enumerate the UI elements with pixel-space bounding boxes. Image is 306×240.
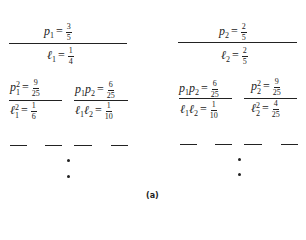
fraction: 25 [242,47,248,66]
subscript: 2 [257,88,261,95]
fraction: 425 [272,100,280,119]
placeholder-dash [45,145,62,146]
placeholder-dash [74,145,92,146]
numerator: 3 [66,23,72,33]
equals-sign: = [262,101,269,115]
subscript: 1 [15,112,19,119]
p-subscript: 1 [50,31,54,40]
right-top-p: p2=25 [219,23,247,42]
placeholder-dash [281,144,298,145]
subscript: 1 [16,89,20,96]
sup-sub: 21 [15,104,19,118]
fraction: 625 [211,80,219,99]
fraction: 16 [31,102,37,121]
denominator: 5 [242,33,246,42]
right-child1-l: ℓ1ℓ2=110 [180,101,218,120]
fraction: 925 [273,78,281,97]
p-subscript: 2 [225,31,229,40]
p-subscript: 2 [195,88,199,97]
fraction: 110 [105,102,113,121]
right-top-l: ℓ2=25 [221,47,248,66]
ellipsis-dot [67,159,70,162]
left-child2-l: ℓ1ℓ2=110 [75,102,113,121]
numerator: 9 [33,79,39,89]
right-child2-l: ℓ22=425 [251,100,280,119]
left-top-l: ℓ1=14 [47,47,74,66]
equals-sign: = [21,103,28,117]
denominator: 25 [272,110,280,119]
equals-sign: = [22,80,29,94]
left-top-divider [9,43,127,44]
left-child1-l: ℓ21=16 [10,102,37,121]
denominator: 10 [105,112,113,121]
sup-sub: 21 [16,81,20,95]
denominator: 5 [67,33,71,42]
denominator: 10 [210,111,218,120]
denominator: 25 [273,88,281,97]
equals-sign: = [95,103,102,117]
placeholder-dash [244,144,262,145]
ellipsis-dot [67,175,70,178]
ellipsis-dot [238,158,241,161]
fraction: 110 [210,101,218,120]
equals-sign: = [232,48,239,62]
equals-sign: = [58,48,65,62]
left-child2-p: p1p2=625 [75,81,115,100]
left-child1-p: p21=925 [10,79,40,98]
denominator: 4 [69,57,73,66]
placeholder-dash [180,144,197,145]
l-subscript: 2 [226,55,230,64]
sup-sub: 22 [256,102,260,116]
right-child1-divider [179,98,232,99]
denominator: 6 [32,112,36,121]
right-child2-p: p22=925 [251,78,281,97]
right-child1-p: p1p2=625 [179,80,219,99]
placeholder-dash [215,144,232,145]
l-subscript: 2 [89,110,93,119]
numerator: 1 [31,102,37,112]
placeholder-dash [10,145,27,146]
p-subscript: 2 [91,89,95,98]
denominator: 25 [107,91,115,100]
equals-sign: = [56,24,63,38]
equals-sign: = [231,24,238,38]
fraction: 625 [107,81,115,100]
numerator: 4 [273,100,279,110]
equals-sign: = [263,79,270,93]
placeholder-dash [111,145,128,146]
sup-sub: 22 [257,80,261,94]
numerator: 1 [68,47,74,57]
fraction: 925 [32,79,40,98]
fraction: 25 [241,23,247,42]
denominator: 5 [243,57,247,66]
numerator: 2 [241,23,247,33]
left-top-p: p1=35 [44,23,72,42]
equals-sign: = [200,102,207,116]
numerator: 6 [212,80,218,90]
numerator: 2 [242,47,248,57]
l-subscript: 1 [52,55,56,64]
numerator: 1 [106,102,112,112]
denominator: 25 [32,89,40,98]
equals-sign: = [201,81,208,95]
numerator: 1 [211,101,217,111]
ellipsis-dot [238,173,241,176]
l-subscript: 2 [194,109,198,118]
right-top-divider [178,42,297,43]
numerator: 9 [274,78,280,88]
figure-caption: (a) [146,191,159,200]
subscript: 2 [256,110,260,117]
fraction: 35 [66,23,72,42]
numerator: 6 [108,81,114,91]
equals-sign: = [97,82,104,96]
fraction: 14 [68,47,74,66]
